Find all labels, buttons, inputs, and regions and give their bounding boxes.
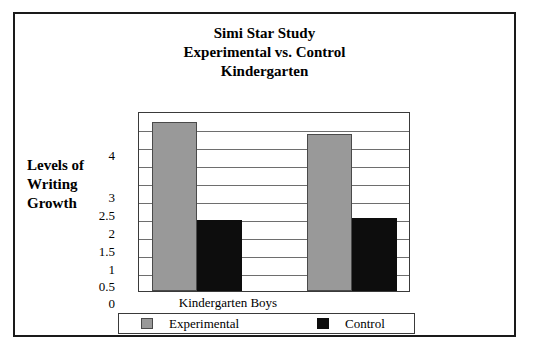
legend-item-experimental: Experimental [141, 316, 239, 332]
legend-label-experimental: Experimental [169, 316, 239, 332]
y-tick-label-0.5: 0.5 [55, 280, 115, 293]
chart-figure: Simi Star Study Experimental vs. Control… [13, 12, 516, 337]
y-tick-label-1: 1 [55, 263, 115, 276]
chart-title-line-3: Kindergarten [15, 62, 514, 81]
bar-group1-experimental [152, 122, 197, 291]
y-tick-label-4: 4 [55, 149, 115, 162]
legend-item-control: Control [317, 316, 385, 332]
legend-swatch-experimental-icon [141, 318, 153, 329]
chart-legend: Experimental Control [118, 313, 415, 334]
y-tick-label-0: 0 [55, 297, 115, 310]
legend-label-control: Control [345, 316, 385, 332]
y-tick-label-2: 2 [55, 227, 115, 240]
bar-group2-control [352, 218, 397, 291]
x-axis-category-label: Kindergarten Boys [138, 295, 318, 311]
y-tick-label-2.5: 2.5 [55, 209, 115, 222]
bar-group1-control [197, 220, 242, 291]
y-tick-label-1.5: 1.5 [55, 245, 115, 258]
legend-swatch-control-icon [317, 318, 329, 329]
chart-title-line-1: Simi Star Study [15, 24, 514, 43]
y-tick-label-3: 3 [55, 191, 115, 204]
chart-title: Simi Star Study Experimental vs. Control… [15, 24, 514, 81]
chart-title-line-2: Experimental vs. Control [15, 43, 514, 62]
plot-area [138, 112, 410, 292]
bar-group2-experimental [307, 134, 352, 291]
